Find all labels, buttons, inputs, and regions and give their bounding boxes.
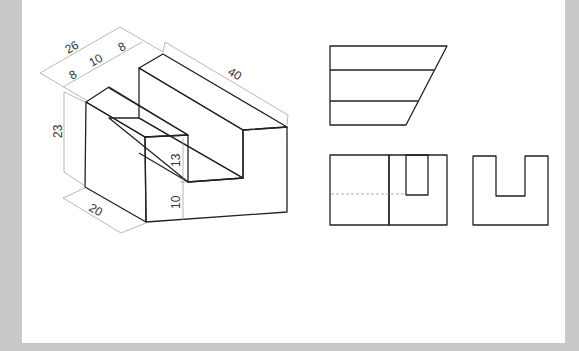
technical-drawing: 26 8 10 8 40 23 20 13 10 — [0, 0, 579, 351]
front-view — [330, 155, 447, 225]
isometric-view: 26 8 10 8 40 23 20 13 10 — [40, 27, 288, 233]
top-view — [330, 46, 447, 125]
dim-right-wall: 8 — [116, 39, 129, 55]
dim-slot-width: 10 — [87, 51, 106, 70]
dim-depth: 20 — [87, 200, 106, 219]
front-face — [145, 127, 287, 222]
dim-overall-width: 26 — [63, 38, 82, 57]
dim-left-wall: 8 — [67, 67, 80, 83]
dim-length: 40 — [226, 64, 245, 83]
left-block-top-face — [86, 87, 188, 137]
dim-base-height: 10 — [169, 195, 183, 209]
dim-slot-depth: 13 — [169, 153, 183, 167]
dim-height: 23 — [51, 124, 65, 138]
side-view — [473, 156, 548, 225]
